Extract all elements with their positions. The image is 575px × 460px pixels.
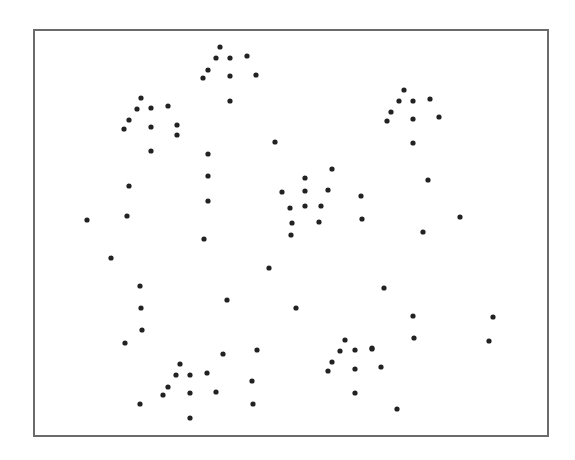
data-point bbox=[137, 283, 142, 288]
data-point bbox=[160, 392, 165, 397]
data-point bbox=[148, 124, 153, 129]
data-point bbox=[411, 335, 416, 340]
data-point bbox=[174, 132, 179, 137]
data-point bbox=[148, 148, 153, 153]
data-point bbox=[205, 151, 210, 156]
data-point bbox=[139, 327, 144, 332]
data-point bbox=[425, 177, 430, 182]
data-point bbox=[253, 72, 258, 77]
data-point bbox=[249, 378, 254, 383]
data-point bbox=[227, 98, 232, 103]
data-point bbox=[187, 390, 192, 395]
data-point bbox=[165, 103, 170, 108]
data-point bbox=[410, 116, 415, 121]
data-point bbox=[205, 198, 210, 203]
data-point bbox=[302, 188, 307, 193]
data-point bbox=[201, 236, 206, 241]
data-point bbox=[378, 364, 383, 369]
data-point bbox=[302, 203, 307, 208]
data-point bbox=[224, 297, 229, 302]
data-point bbox=[337, 348, 342, 353]
data-point bbox=[388, 109, 393, 114]
data-point bbox=[124, 213, 129, 218]
data-point bbox=[329, 359, 334, 364]
data-point bbox=[121, 126, 126, 131]
data-point bbox=[302, 175, 307, 180]
data-point bbox=[108, 255, 113, 260]
data-point bbox=[205, 173, 210, 178]
data-point bbox=[352, 366, 357, 371]
data-point bbox=[137, 401, 142, 406]
data-point bbox=[227, 73, 232, 78]
data-point bbox=[325, 187, 330, 192]
data-point bbox=[490, 314, 495, 319]
data-point bbox=[177, 361, 182, 366]
data-point bbox=[358, 193, 363, 198]
data-point bbox=[410, 140, 415, 145]
data-point bbox=[329, 166, 334, 171]
data-point bbox=[486, 338, 491, 343]
data-point bbox=[205, 67, 210, 72]
data-point bbox=[279, 189, 284, 194]
data-point bbox=[318, 203, 323, 208]
data-point bbox=[316, 219, 321, 224]
data-point bbox=[457, 214, 462, 219]
data-point bbox=[288, 232, 293, 237]
data-point bbox=[165, 384, 170, 389]
data-point bbox=[213, 389, 218, 394]
data-point bbox=[436, 114, 441, 119]
data-point bbox=[213, 55, 218, 60]
data-point bbox=[410, 313, 415, 318]
data-point bbox=[187, 415, 192, 420]
data-point bbox=[148, 105, 153, 110]
data-point bbox=[204, 370, 209, 375]
data-point bbox=[266, 265, 271, 270]
data-point bbox=[173, 372, 178, 377]
data-point bbox=[401, 87, 406, 92]
data-point bbox=[342, 337, 347, 342]
data-point bbox=[369, 345, 374, 350]
data-point bbox=[254, 347, 259, 352]
data-point bbox=[187, 372, 192, 377]
data-point bbox=[227, 55, 232, 60]
data-point bbox=[289, 220, 294, 225]
data-point bbox=[244, 53, 249, 58]
data-point bbox=[220, 351, 225, 356]
data-point bbox=[427, 96, 432, 101]
scatter-plot bbox=[0, 0, 575, 460]
data-point bbox=[359, 216, 364, 221]
data-point bbox=[134, 106, 139, 111]
data-point bbox=[384, 118, 389, 123]
data-point bbox=[325, 368, 330, 373]
data-point bbox=[138, 95, 143, 100]
data-point bbox=[200, 75, 205, 80]
data-point bbox=[174, 122, 179, 127]
data-point bbox=[126, 117, 131, 122]
data-point bbox=[396, 98, 401, 103]
data-points bbox=[84, 44, 495, 420]
data-point bbox=[138, 305, 143, 310]
data-point bbox=[217, 44, 222, 49]
data-point bbox=[410, 98, 415, 103]
data-point bbox=[420, 229, 425, 234]
data-point bbox=[352, 390, 357, 395]
data-point bbox=[126, 183, 131, 188]
data-point bbox=[352, 347, 357, 352]
data-point bbox=[287, 205, 292, 210]
data-point bbox=[394, 406, 399, 411]
data-point bbox=[84, 217, 89, 222]
data-point bbox=[381, 285, 386, 290]
data-point bbox=[272, 139, 277, 144]
data-point bbox=[122, 340, 127, 345]
data-point bbox=[293, 305, 298, 310]
data-point bbox=[250, 401, 255, 406]
